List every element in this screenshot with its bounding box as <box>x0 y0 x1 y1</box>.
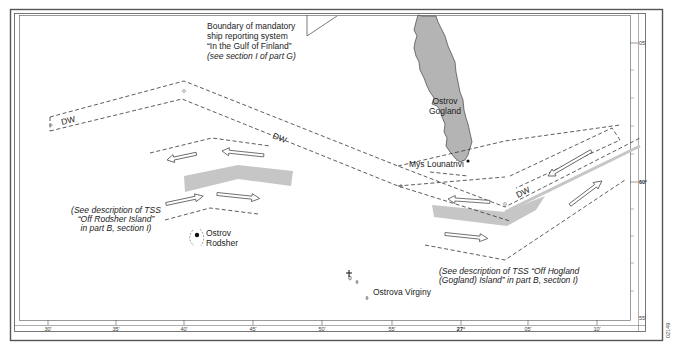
boundary-note: Boundary of mandatory ship reporting sys… <box>207 21 296 61</box>
svg-text:(see section I of part G): (see section I of part G) <box>207 51 296 61</box>
arrow-east-icon <box>445 230 489 242</box>
lon-tick-05: 05' <box>524 326 531 332</box>
figure-id: 02149 <box>665 323 671 338</box>
svg-text:Rodsher: Rodsher <box>206 238 238 248</box>
svg-text:ship reporting system: ship reporting system <box>207 31 288 41</box>
mys-lounatrivi-light-icon <box>466 159 469 162</box>
ostrov-gogland-landmass <box>414 15 472 162</box>
lon-tick-30: 30' <box>44 326 51 332</box>
arrow-west-icon <box>546 148 593 180</box>
gogland-label: Ostrov Gogland <box>429 96 461 116</box>
lon-tick-40: 40' <box>180 326 187 332</box>
svg-text:(Gogland) Island” in part B, s: (Gogland) Island” in part B, section I) <box>439 275 578 285</box>
ostrova-virginy-label: Ostrova Virginy <box>373 287 432 297</box>
lon-tick-27deg: 27° <box>457 326 465 332</box>
dw-label-east: DW <box>514 184 531 199</box>
ostrova-virginy-islets-icon <box>346 270 368 300</box>
separation-zone-rodsher <box>184 165 293 192</box>
tss-hogland-note: (See description of TSS “Off Hogland (Go… <box>439 266 580 285</box>
rodsher-label: Ostrov Rodsher <box>206 228 238 248</box>
deep-water-route <box>50 81 640 221</box>
lon-tick-50: 50' <box>318 326 325 332</box>
arrow-west-icon <box>166 150 197 164</box>
lon-tick-45: 45' <box>249 326 256 332</box>
lon-tick-35: 35' <box>112 326 119 332</box>
dw-label-central: DW <box>271 131 288 146</box>
arrow-east-icon <box>165 192 204 208</box>
svg-text:in part B, section I): in part B, section I) <box>81 223 152 233</box>
arrow-west-icon <box>222 147 265 159</box>
longitude-scale: 30' 35' 40' 45' 50' 55' 27° 05' 10' <box>44 320 600 332</box>
nautical-chart: 30' 35' 40' 45' 50' 55' 27° 05' 10' 05' … <box>0 0 673 349</box>
lat-tick-05: 05' <box>639 40 646 46</box>
lon-tick-55: 55' <box>388 326 395 332</box>
svg-text:Gogland: Gogland <box>429 106 461 116</box>
svg-text:Ostrov: Ostrov <box>206 228 232 238</box>
tss-rodsher-north-boundary <box>150 138 270 153</box>
lat-tick-55: 55' <box>639 315 646 321</box>
tss-rodsher-south-boundary <box>165 208 258 220</box>
svg-text:Boundary of mandatory: Boundary of mandatory <box>207 21 296 31</box>
arrow-east-icon <box>217 190 261 202</box>
lon-tick-10: 10' <box>593 326 600 332</box>
svg-text:Ostrov: Ostrov <box>432 96 458 106</box>
dw-label-west: DW <box>60 114 76 127</box>
tss-hogland-west-boundary <box>430 172 468 176</box>
svg-text:“In the Gulf of Finland”: “In the Gulf of Finland” <box>207 41 292 51</box>
ostrov-rodsher-icon <box>190 229 204 246</box>
mys-lounatrivi-label: Mys Lounatrivi <box>409 159 464 169</box>
chart-frame <box>11 10 663 341</box>
arrow-west-icon <box>448 195 490 206</box>
reporting-system-boundary <box>307 15 337 36</box>
arrow-east-icon <box>568 178 605 208</box>
lat-tick-60deg: 60° <box>639 179 647 185</box>
tss-rodsher-note: (See description of TSS “Off Rodsher Isl… <box>71 205 161 233</box>
